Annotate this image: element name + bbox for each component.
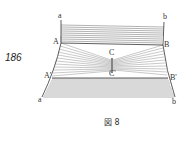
label-b-top: b	[163, 13, 167, 21]
top-band-lines	[60, 25, 164, 43]
label-C-prime: C'	[109, 70, 116, 78]
label-A: A	[53, 38, 59, 46]
label-C: C	[109, 49, 114, 57]
label-A-prime: A'	[44, 72, 51, 80]
label-B: B	[164, 41, 169, 49]
label-a-top: a	[58, 12, 62, 20]
label-a-bottom: a	[38, 96, 42, 104]
label-b-bottom: b	[172, 98, 176, 106]
ruled-surface-diagram	[0, 0, 192, 141]
label-B-prime: B'	[170, 74, 177, 82]
figure-caption: 図 8	[104, 116, 120, 127]
bottom-band-lines	[43, 79, 174, 97]
